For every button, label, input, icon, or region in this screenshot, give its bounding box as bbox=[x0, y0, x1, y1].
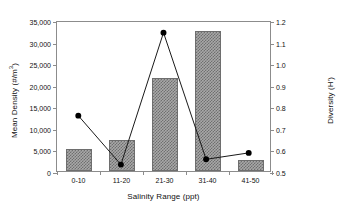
x-axis-tick-label: 41-50 bbox=[242, 177, 260, 184]
y-axis-right-tick-label: 0.6 bbox=[276, 148, 286, 155]
x-axis-tick bbox=[57, 171, 58, 175]
y-axis-right-tick-label: 0.7 bbox=[276, 126, 286, 133]
line-marker bbox=[161, 30, 167, 36]
y-axis-right-tick-label: 1.0 bbox=[276, 62, 286, 69]
y-axis-right-tick bbox=[270, 44, 274, 45]
y-axis-left-tick-label: 25,000 bbox=[30, 62, 51, 69]
y-axis-left-tick-label: 20,000 bbox=[30, 83, 51, 90]
x-axis-tick bbox=[186, 171, 187, 175]
y-axis-left-tick-label: 5,000 bbox=[33, 148, 51, 155]
y-axis-right-tick bbox=[270, 87, 274, 88]
y-axis-right-tick-label: 1.1 bbox=[276, 40, 286, 47]
y-axis-right-tick-label: 0.8 bbox=[276, 105, 286, 112]
x-axis-tick bbox=[272, 171, 273, 175]
x-axis-tick bbox=[143, 171, 144, 175]
line-marker bbox=[203, 156, 209, 162]
line-path bbox=[78, 33, 248, 165]
y-axis-left-title: Mean Density (#/m3) bbox=[10, 41, 19, 161]
line-series bbox=[57, 22, 270, 171]
y-axis-left-title-superscript: 3 bbox=[8, 66, 14, 69]
line-marker bbox=[75, 113, 81, 119]
y-axis-right-tick-label: 1.2 bbox=[276, 19, 286, 26]
x-axis-title: Salinity Range (ppt) bbox=[56, 192, 271, 201]
y-axis-right-title: Diversity (H') bbox=[326, 41, 335, 161]
chart-container: Mean Density (#/m3) Diversity (H') Salin… bbox=[0, 0, 338, 210]
x-axis-tick-label: 11-20 bbox=[113, 177, 130, 184]
y-axis-left-tick-label: 30,000 bbox=[30, 40, 51, 47]
y-axis-right-tick bbox=[270, 65, 274, 66]
plot-area: 05,00010,00015,00020,00025,00030,00035,0… bbox=[56, 21, 271, 172]
y-axis-left-title-suffix: ) bbox=[10, 63, 19, 66]
x-axis-tick-label: 0-10 bbox=[71, 177, 85, 184]
y-axis-right-tick-label: 0.5 bbox=[276, 170, 286, 177]
y-axis-left-tick-label: 10,000 bbox=[30, 126, 51, 133]
x-axis-tick bbox=[100, 171, 101, 175]
y-axis-left-tick-label: 0 bbox=[47, 170, 51, 177]
y-axis-right-tick bbox=[270, 22, 274, 23]
y-axis-left-tick-label: 35,000 bbox=[30, 19, 51, 26]
y-axis-right-tick bbox=[270, 108, 274, 109]
y-axis-right-tick bbox=[270, 151, 274, 152]
y-axis-right-tick bbox=[270, 130, 274, 131]
line-marker bbox=[118, 162, 124, 168]
y-axis-right-tick-label: 0.9 bbox=[276, 83, 286, 90]
x-axis-tick-label: 21-30 bbox=[156, 177, 174, 184]
line-marker bbox=[246, 150, 252, 156]
x-axis-tick bbox=[229, 171, 230, 175]
y-axis-left-title-text: Mean Density (#/m bbox=[10, 69, 19, 138]
x-axis-tick-label: 31-40 bbox=[199, 177, 217, 184]
y-axis-left-tick-label: 15,000 bbox=[30, 105, 51, 112]
